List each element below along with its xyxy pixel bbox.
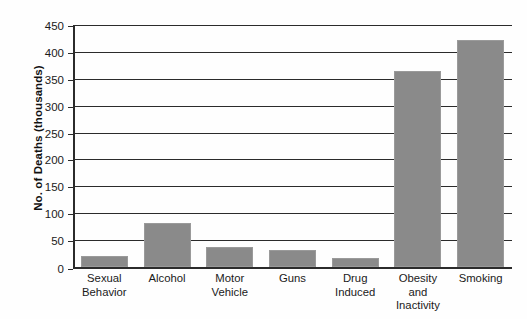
x-category-label-line: Drug [324,272,387,286]
y-tick-label-0: 0 [58,263,64,275]
y-tick-mark-450 [68,26,73,27]
x-category-label-line: Induced [324,286,387,300]
gridline-0: 0 [73,267,512,269]
y-tick-mark-0 [68,269,73,270]
x-category-label-motor-vehicle: MotorVehicle [198,272,261,299]
bar-alcohol[interactable] [144,223,191,267]
x-category-label-guns: Guns [261,272,324,286]
gridline-50: 50 [73,240,512,241]
x-category-label-line: Obesity [387,272,450,286]
gridline-200: 200 [73,159,512,160]
x-category-label-line: Guns [261,272,324,286]
x-category-label-smoking: Smoking [449,272,512,286]
y-tick-label-400: 400 [45,47,64,59]
x-category-label-line: and [387,286,450,300]
x-category-label-sexual-behavior: SexualBehavior [73,272,136,299]
y-tick-mark-50 [68,241,73,242]
gridline-150: 150 [73,186,512,187]
y-tick-label-100: 100 [45,208,64,220]
bar-motor-vehicle[interactable] [206,247,253,267]
bar-sexual-behavior[interactable] [81,256,128,267]
y-tick-label-300: 300 [45,101,64,113]
y-tick-mark-250 [68,134,73,135]
x-category-label-obesity-and-inactivity: ObesityandInactivity [387,272,450,313]
bar-smoking[interactable] [457,40,504,267]
x-category-label-drug-induced: DrugInduced [324,272,387,299]
y-tick-mark-350 [68,80,73,81]
gridline-100: 100 [73,213,512,214]
gridline-350: 350 [73,79,512,80]
bar-drug-induced[interactable] [332,258,379,267]
x-category-label-line: Inactivity [387,299,450,313]
y-tick-mark-100 [68,214,73,215]
bar-obesity-and-inactivity[interactable] [394,71,441,267]
y-tick-mark-200 [68,160,73,161]
y-tick-label-250: 250 [45,128,64,140]
gridline-400: 400 [73,52,512,53]
x-category-label-line: Smoking [449,272,512,286]
plot-area: 450400350300250200150100500 [73,25,512,267]
x-category-label-line: Motor [198,272,261,286]
y-tick-label-450: 450 [45,20,64,32]
y-tick-label-50: 50 [51,235,64,247]
y-tick-mark-300 [68,107,73,108]
x-category-label-line: Sexual [73,272,136,286]
x-category-label-line: Vehicle [198,286,261,300]
y-tick-label-150: 150 [45,181,64,193]
x-category-label-alcohol: Alcohol [136,272,199,286]
bar-guns[interactable] [269,250,316,267]
y-tick-label-350: 350 [45,74,64,86]
gridline-450: 450 [73,25,512,26]
y-tick-mark-400 [68,53,73,54]
x-category-label-line: Alcohol [136,272,199,286]
gridline-300: 300 [73,106,512,107]
y-tick-label-200: 200 [45,154,64,166]
bar-chart-figure: No. of Deaths (thousands) 45040035030025… [0,0,527,319]
y-axis-title: No. of Deaths (thousands) [32,28,44,248]
x-category-label-line: Behavior [73,286,136,300]
y-tick-mark-150 [68,187,73,188]
gridline-250: 250 [73,133,512,134]
